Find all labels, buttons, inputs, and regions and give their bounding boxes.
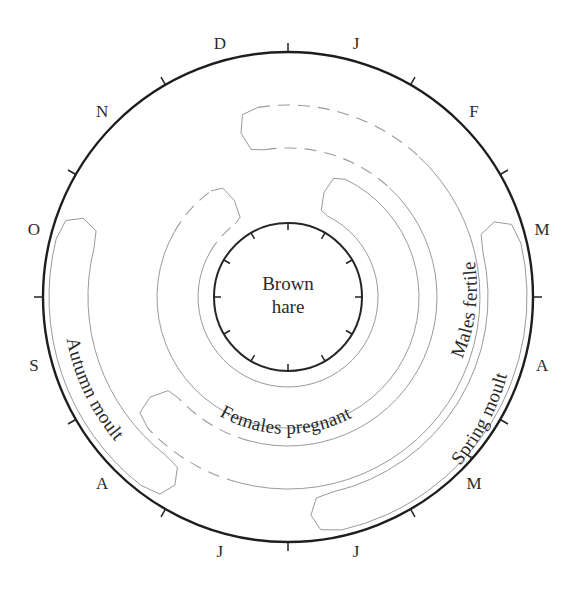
outer-tick (161, 77, 166, 85)
month-label: O (28, 220, 40, 239)
inner-tick (346, 331, 352, 335)
month-label: J (353, 542, 360, 561)
outer-tick (411, 509, 416, 517)
month-label: A (96, 474, 109, 493)
outer-tick (68, 170, 76, 175)
inner-tick (224, 260, 230, 264)
month-label: M (466, 474, 481, 493)
inner-tick (322, 233, 326, 239)
center-label-line1: Brown (262, 273, 314, 294)
outer-tick (500, 420, 508, 425)
outer-tick (161, 509, 166, 517)
outer-tick (411, 77, 416, 85)
label-females-pregnant: Females pregnant (217, 401, 355, 438)
season-bands (49, 105, 527, 530)
month-label: F (469, 102, 478, 121)
inner-tick (251, 355, 255, 361)
inner-tick (322, 355, 326, 361)
inner-tick (224, 331, 230, 335)
month-label: A (536, 356, 549, 375)
inner-tick (346, 260, 352, 264)
month-label: N (96, 102, 108, 121)
month-label: J (353, 34, 360, 53)
outer-tick (68, 420, 76, 425)
month-label: D (214, 34, 226, 53)
center-label-line2: hare (272, 296, 305, 317)
outer-tick (500, 170, 508, 175)
month-label: M (534, 220, 549, 239)
month-label: S (29, 356, 38, 375)
month-label: J (217, 542, 224, 561)
inner-tick (251, 233, 255, 239)
label-males-fertile: Males fertile (446, 260, 480, 361)
brown-hare-cycle-diagram: JFMAMJJASOND Brown hare Females pregnant… (0, 0, 578, 595)
